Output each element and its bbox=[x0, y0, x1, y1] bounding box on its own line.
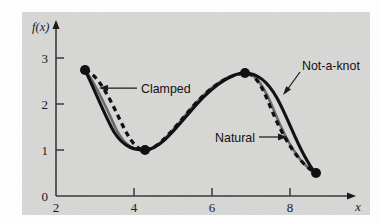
y-tick-label-0: 0 bbox=[42, 189, 49, 204]
knot-point-2 bbox=[140, 145, 150, 155]
plot-canvas: 0 1 2 3 2 4 6 8 f(x) x Cla bbox=[0, 0, 381, 223]
x-tick-label-6: 6 bbox=[209, 200, 216, 215]
y-tick-label-2: 2 bbox=[42, 97, 49, 112]
y-tick-label-1: 1 bbox=[42, 143, 49, 158]
knot-point-4 bbox=[311, 168, 321, 178]
x-tick-label-2: 2 bbox=[53, 200, 60, 215]
x-axis-label: x bbox=[354, 200, 361, 214]
x-tick-label-8: 8 bbox=[287, 200, 294, 215]
spline-comparison-figure: 0 1 2 3 2 4 6 8 f(x) x Cla bbox=[0, 0, 381, 223]
knot-point-1 bbox=[80, 65, 90, 75]
annotation-label-not-a-knot: Not-a-knot bbox=[302, 59, 360, 73]
knot-point-3 bbox=[240, 68, 250, 78]
y-axis-label: f(x) bbox=[32, 20, 49, 34]
y-tick-label-3: 3 bbox=[42, 51, 49, 66]
annotation-label-natural: Natural bbox=[215, 131, 255, 145]
annotation-label-clamped: Clamped bbox=[141, 82, 191, 96]
x-tick-label-4: 4 bbox=[131, 200, 138, 215]
panel-grain-texture bbox=[22, 12, 370, 215]
